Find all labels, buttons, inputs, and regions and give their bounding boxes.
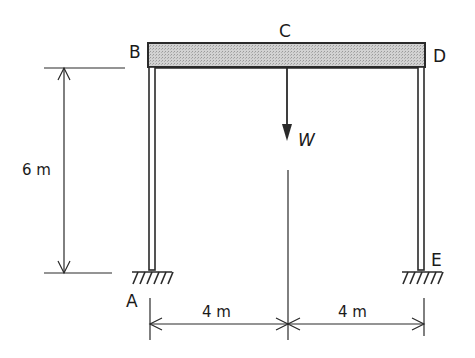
portal-frame-diagram: A B C D E W 6 m 4 m 4 m [0, 0, 475, 358]
span-dimension [150, 298, 424, 340]
height-dimension [44, 68, 125, 273]
node-label-a: A [126, 291, 138, 311]
node-label-e: E [431, 250, 442, 270]
left-span-label: 4 m [202, 303, 231, 321]
node-label-b: B [129, 42, 141, 62]
right-span-label: 4 m [338, 303, 367, 321]
fixed-support-a [132, 272, 173, 284]
column-de [418, 67, 424, 270]
fixed-support-e [402, 272, 443, 284]
load-arrow-w [282, 68, 292, 141]
load-label: W [298, 130, 316, 150]
height-label: 6 m [22, 161, 51, 179]
column-ab [149, 67, 418, 270]
beam-bd [148, 43, 425, 67]
node-label-d: D [433, 46, 446, 66]
node-label-c: C [279, 21, 291, 41]
